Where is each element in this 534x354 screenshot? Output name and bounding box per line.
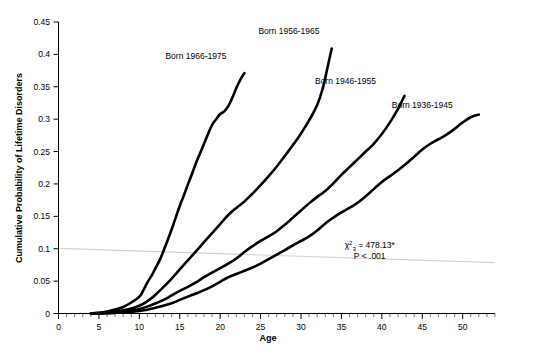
- x-tick-label: 5: [97, 322, 102, 332]
- x-tick-label: 40: [377, 322, 387, 332]
- p-value-text: P < .001: [354, 251, 386, 261]
- y-tick-label: 0.3: [38, 114, 50, 124]
- x-tick-label: 25: [256, 322, 266, 332]
- x-tick-label: 50: [458, 322, 468, 332]
- y-tick-label: 0.1: [38, 244, 50, 254]
- x-axis-title: Age: [259, 333, 276, 343]
- series-label-1: Born 1966-1975: [165, 51, 226, 61]
- series-label-3: Born 1946-1955: [315, 76, 376, 86]
- x-tick-label: 20: [215, 322, 225, 332]
- y-tick-label: 0.15: [33, 211, 50, 221]
- y-tick-label: 0: [45, 309, 50, 319]
- x-tick-label: 10: [135, 322, 145, 332]
- x-tick-label: 35: [337, 322, 347, 332]
- series-label-4: Born 1936-1945: [392, 100, 453, 110]
- y-tick-label: 0.2: [38, 179, 50, 189]
- chart-container: 00.050.10.150.20.250.30.350.40.45 051015…: [0, 0, 534, 354]
- y-tick-label: 0.45: [33, 17, 50, 27]
- y-axis-title: Cumulative Probability of Lifetime Disor…: [14, 73, 24, 263]
- series-label-2: Born 1956-1965: [258, 26, 319, 36]
- y-tick-label: 0.05: [33, 276, 50, 286]
- cumulative-probability-line-chart: 00.050.10.150.20.250.30.350.40.45 051015…: [0, 0, 534, 354]
- x-tick-label: 0: [56, 322, 61, 332]
- y-tick-label: 0.35: [33, 82, 50, 92]
- x-tick-label: 15: [175, 322, 185, 332]
- x-tick-label: 30: [296, 322, 306, 332]
- x-tick-label: 45: [418, 322, 428, 332]
- y-tick-label: 0.4: [38, 49, 50, 59]
- y-tick-label: 0.25: [33, 147, 50, 157]
